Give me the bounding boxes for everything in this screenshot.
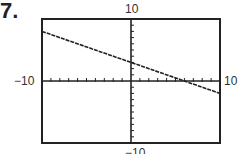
graph-window <box>0 0 239 154</box>
